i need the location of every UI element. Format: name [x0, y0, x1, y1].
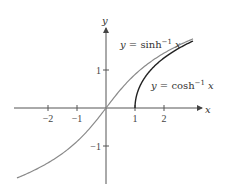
inverse-hyperbolic-chart: x y −2−1121−1 y = sinh−1 x y = cosh−1 x: [0, 0, 225, 184]
cosh-label: y = cosh−1 x: [150, 79, 214, 91]
x-tick-label: 1: [133, 113, 138, 124]
x-tick-label: 2: [162, 113, 167, 124]
sinh-label: y = sinh−1 x: [119, 38, 181, 50]
x-axis-label: x: [205, 104, 211, 115]
x-tick-label: −2: [43, 113, 54, 124]
y-axis-label: y: [101, 15, 108, 26]
y-tick-label: −1: [90, 141, 101, 152]
x-tick-label: −1: [72, 113, 83, 124]
y-tick-label: 1: [96, 65, 101, 76]
cosh-inverse-curve: [135, 41, 193, 108]
